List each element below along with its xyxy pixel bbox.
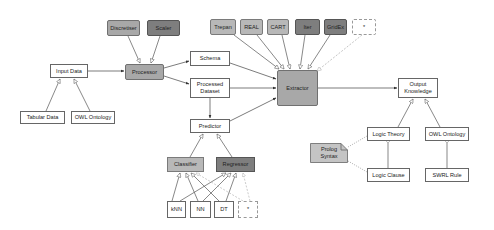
processed-dataset-line1: Processed [197, 81, 223, 88]
edge-owl-input [74, 79, 90, 111]
swrl-rule-node: SWRL Rule [425, 168, 469, 182]
edge-predictor-extractor [230, 98, 276, 121]
edge-knn-classifier [172, 173, 180, 201]
edge-owlout-output [425, 99, 440, 127]
edge-classifier-predictor [190, 134, 203, 157]
edge-cart-extractor [282, 35, 290, 69]
edge-any-extractor [317, 35, 362, 71]
extractor-real-node: REAL [240, 19, 263, 35]
extractor-any-node: * [352, 19, 376, 35]
prolog-note-line1: Prolog [321, 146, 337, 153]
edge-nn-classifier [186, 173, 198, 201]
edge-logictheory-output [398, 99, 413, 127]
extractor-gridex-node: GridEx [324, 19, 347, 35]
edge-scaler-processor [151, 36, 160, 63]
edge-processor-schema [164, 61, 189, 68]
processor-node: Processor [125, 64, 164, 80]
edge-any-regressor [243, 173, 250, 201]
processed-dataset-line2: Dataset [200, 88, 219, 95]
scaler-node: Scaler [147, 20, 180, 36]
edge-schema-extractor [230, 63, 276, 79]
output-knowledge-line1: Output [410, 81, 427, 88]
model-knn-node: kNN [167, 201, 186, 218]
edge-nn-regressor [203, 173, 231, 201]
extractor-node: Extractor [277, 70, 318, 106]
edge-trepan-extractor [234, 35, 279, 69]
output-knowledge-line2: Knowledge [404, 88, 432, 95]
model-dt-node: DT [214, 201, 234, 218]
classifier-node: Classifier [167, 157, 204, 172]
schema-node: Schema [190, 51, 230, 66]
owl-ontology-input-node: OWL Ontology [71, 111, 115, 124]
edge-dt-regressor [226, 173, 236, 201]
edge-regressor-predictor [217, 134, 232, 157]
model-nn-node: NN [190, 201, 211, 218]
predictor-node: Predictor [190, 119, 230, 133]
extractor-iter-node: Iter [295, 19, 320, 35]
output-knowledge-node: Output Knowledge [398, 78, 438, 98]
prolog-syntax-note: Prolog Syntax [310, 143, 348, 163]
processed-dataset-node: Processed Dataset [190, 78, 230, 98]
owl-ontology-output-node: OWL Ontology [425, 127, 469, 141]
discretiser-node: Discretiser [107, 20, 140, 36]
edge-processor-dataset [164, 76, 189, 84]
model-any-node: * [238, 201, 258, 218]
edge-real-extractor [257, 35, 284, 69]
extractor-cart-node: CART [267, 19, 289, 35]
edge-note-theory [348, 136, 367, 147]
edge-note-clause [348, 161, 367, 172]
input-data-node: Input Data [50, 64, 88, 78]
regressor-node: Regressor [216, 157, 255, 172]
logic-theory-node: Logic Theory [367, 127, 410, 141]
logic-clause-node: Logic Clause [367, 168, 410, 182]
edge-discretiser-processor [128, 36, 140, 63]
edge-dt-classifier [191, 173, 219, 201]
extractor-trepan-node: Trepan [210, 19, 236, 35]
edge-gridex-extractor [308, 35, 330, 69]
edge-tabular-input [46, 79, 60, 111]
tabular-data-node: Tabular Data [20, 111, 65, 124]
edge-iter-extractor [300, 35, 305, 69]
prolog-note-line2: Syntax [320, 153, 337, 160]
